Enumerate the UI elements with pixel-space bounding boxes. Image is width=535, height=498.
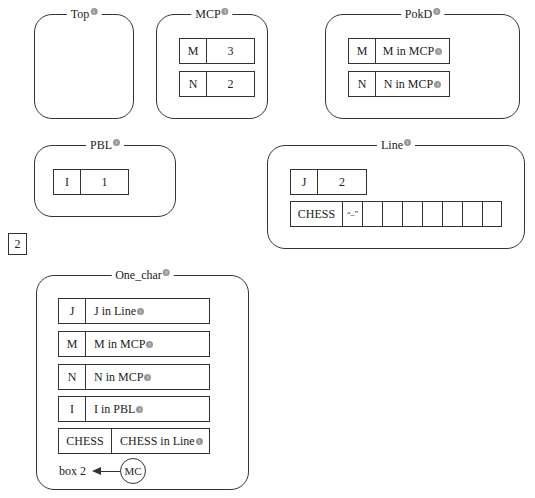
array-cell [442,202,462,226]
title-text: Line [381,138,403,152]
array-cell [362,202,382,226]
variable-row-i: I I in PBL1 [58,396,210,422]
marker-icon: 1 [434,81,441,88]
marker-icon: 1 [404,139,411,146]
variable-row-m: M 3 [179,38,255,64]
frame-title: Line1 [377,137,415,153]
variable-row-n: N N in MCP1 [58,364,210,390]
title-text: PokD [405,7,432,21]
value-text: CHESS in Line [120,434,195,449]
arrow-line [99,471,120,472]
variable-name: M [349,39,375,63]
variable-value: M in MCP1 [375,39,449,63]
return-label: box 2 [59,464,86,479]
variable-row-m: M M in MCP1 [58,331,210,357]
frame-mcp: MCP1 [156,14,268,119]
variable-row-j: J J in Line1 [58,298,210,324]
value-text: M in MCP [383,44,434,59]
frame-title: PokD1 [401,6,444,22]
variable-row-n: N 2 [179,71,255,97]
variable-value: CHESS in Line1 [111,429,209,453]
array-cell: “–” [342,202,362,226]
variable-value: M in MCP1 [85,332,209,356]
frame-line: Line1 [267,145,525,249]
standalone-box: 2 [8,233,27,255]
variable-name: J [59,299,85,323]
variable-value: 3 [206,39,254,63]
marker-icon: 1 [146,341,153,348]
array-cell [382,202,402,226]
mc-circle: MC [120,458,146,484]
marker-icon: 1 [435,48,442,55]
value-text: I in PBL [94,402,135,417]
variable-row-chess: CHESS CHESS in Line1 [58,428,210,454]
title-text: MCP [195,7,220,21]
variable-name: M [59,332,85,356]
variable-value: 2 [206,72,254,96]
variable-value: N in MCP1 [375,72,449,96]
marker-icon: 1 [90,8,97,15]
title-text: PBL [90,138,112,152]
title-text: Top [71,7,90,21]
variable-value: I in PBL1 [85,397,209,421]
value-text: J in Line [94,304,136,319]
marker-icon: 1 [113,139,120,146]
frame-top: Top1 [34,14,134,119]
variable-row-i: I 1 [53,169,129,195]
variable-row-m: M M in MCP1 [348,38,450,64]
frame-title: MCP1 [191,6,232,22]
variable-value: 2 [317,170,366,194]
value-text: N in MCP [384,77,433,92]
variable-name: CHESS [291,202,342,226]
variable-name: N [59,365,85,389]
frame-title: One_char2 [111,267,174,283]
marker-icon: 1 [222,8,229,15]
value-text: M in MCP [94,337,145,352]
frame-title: PBL1 [86,137,124,153]
variable-name: I [59,397,85,421]
title-text: One_char [115,268,162,282]
frame-pokd: PokD1 [325,14,520,119]
variable-name: CHESS [59,429,111,453]
variable-name: N [180,72,206,96]
marker-icon: 1 [144,374,151,381]
variable-name: I [54,170,80,194]
marker-icon: 1 [433,8,440,15]
array-cell [402,202,422,226]
variable-name: M [180,39,206,63]
variable-name: N [349,72,375,96]
variable-value: J in Line1 [85,299,209,323]
frame-title: Top1 [67,6,102,22]
array-cell [462,202,482,226]
chess-array-row: CHESS “–” [290,201,502,227]
variable-name: J [291,170,317,194]
array-cell [482,202,501,226]
value-text: N in MCP [94,370,143,385]
marker-icon: 2 [163,269,170,276]
variable-row-j: J 2 [290,169,367,195]
array-cell [422,202,442,226]
variable-row-n: N N in MCP1 [348,71,450,97]
variable-value: N in MCP1 [85,365,209,389]
marker-icon: 1 [137,308,144,315]
marker-icon: 1 [196,438,203,445]
variable-value: 1 [80,170,128,194]
marker-icon: 1 [136,406,143,413]
